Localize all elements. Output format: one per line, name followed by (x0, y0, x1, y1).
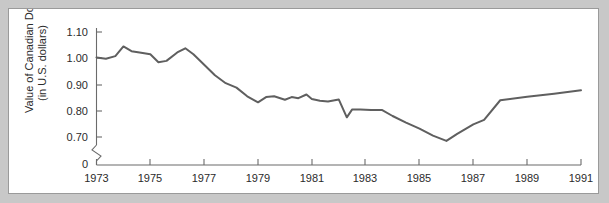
y-axis-title: Value of Canadian Dollar (in U.S. dollar… (23, 9, 48, 113)
x-tick-label-1985: 1985 (407, 172, 431, 184)
y-tick-label-070: 0.70 (67, 131, 88, 143)
y-tick-marks (97, 32, 103, 137)
data-series-line (97, 46, 582, 141)
x-tick-label-1983: 1983 (353, 172, 377, 184)
x-axis-tick-labels: 1973 1975 1977 1979 1981 1983 1985 1987 … (84, 172, 593, 184)
y-tick-label-0: 0 (82, 158, 88, 170)
x-tick-label-1975: 1975 (138, 172, 162, 184)
chart-figure-panel: Value of Canadian Dollar (in U.S. dollar… (8, 8, 599, 194)
x-tick-label-1973: 1973 (84, 172, 108, 184)
y-tick-label-080: 0.80 (67, 105, 88, 117)
line-chart: Value of Canadian Dollar (in U.S. dollar… (9, 9, 598, 193)
y-axis-tick-labels: 1.10 1.00 0.90 0.80 0.70 0 (67, 26, 88, 170)
x-tick-label-1991: 1991 (569, 172, 593, 184)
x-tick-label-1989: 1989 (515, 172, 539, 184)
y-tick-label-100: 1.00 (67, 52, 88, 64)
x-tick-label-1977: 1977 (192, 172, 216, 184)
y-tick-label-110: 1.10 (67, 26, 88, 38)
x-tick-marks (97, 159, 582, 165)
y-axis-title-line2: (in U.S. dollars) (36, 25, 48, 101)
x-tick-label-1981: 1981 (300, 172, 324, 184)
y-tick-label-090: 0.90 (67, 79, 88, 91)
y-axis-title-line1: Value of Canadian Dollar (23, 9, 35, 113)
x-tick-label-1979: 1979 (246, 172, 270, 184)
x-tick-label-1987: 1987 (461, 172, 485, 184)
